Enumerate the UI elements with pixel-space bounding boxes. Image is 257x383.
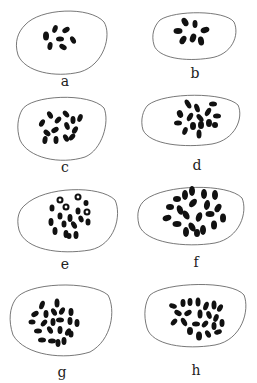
- cell-outline-h: [145, 284, 246, 346]
- panel-label-e: e: [61, 257, 69, 271]
- chromosomes-a: [43, 24, 77, 51]
- chromosomes-b: [174, 17, 211, 46]
- cell-outline-f: [138, 187, 244, 244]
- chromosomes-g: [29, 299, 80, 348]
- cell-outline-d: [142, 95, 240, 145]
- chromosomes-h: [168, 298, 224, 341]
- cell-outline-c: [18, 97, 106, 160]
- panel-label-h: h: [191, 363, 200, 377]
- panel-label-f: f: [193, 255, 198, 269]
- panel-label-g: g: [58, 365, 67, 379]
- panel-label-d: d: [193, 158, 202, 172]
- chromosomes-c: [38, 109, 84, 144]
- cell-outline-a: [16, 11, 107, 74]
- chromosome-figure: [0, 0, 257, 383]
- panel-label-b: b: [191, 66, 200, 80]
- cell-outline-e: [18, 190, 118, 252]
- panel-label-a: a: [61, 74, 69, 88]
- panel-label-c: c: [61, 160, 69, 174]
- chromosomes-d: [174, 98, 221, 138]
- chromosomes-e: [49, 194, 91, 240]
- chromosomes-f: [162, 186, 226, 237]
